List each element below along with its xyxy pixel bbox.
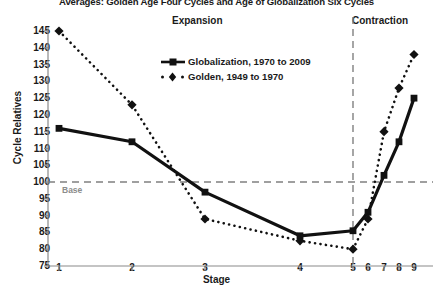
chart-container: Averages: Golden Age Four Cycles and Age…	[0, 0, 433, 290]
data-point-marker-square	[129, 138, 136, 145]
data-point-marker-square	[411, 95, 418, 102]
legend-swatch-dotted-diamond-icon	[160, 71, 186, 83]
legend-item-golden: Golden, 1949 to 1970	[160, 69, 311, 84]
data-point-marker-square	[202, 189, 209, 196]
series-line-globalization	[59, 98, 414, 236]
plot-area	[0, 0, 433, 290]
legend-label-golden: Golden, 1949 to 1970	[188, 71, 283, 82]
data-point-marker-square	[56, 125, 63, 132]
data-point-marker-square	[350, 227, 357, 234]
data-point-marker-diamond	[200, 214, 209, 223]
chart-legend: Globalization, 1970 to 2009 Golden, 1949…	[160, 54, 311, 84]
data-point-marker-square	[396, 138, 403, 145]
legend-label-globalization: Globalization, 1970 to 2009	[188, 56, 311, 67]
legend-swatch-solid-square-icon	[160, 56, 186, 68]
legend-item-globalization: Globalization, 1970 to 2009	[160, 54, 311, 69]
data-point-marker-diamond	[394, 83, 403, 92]
data-point-marker-diamond	[379, 127, 388, 136]
data-point-marker-diamond	[409, 50, 418, 59]
data-point-marker-square	[381, 172, 388, 179]
data-point-marker-diamond	[348, 245, 357, 254]
